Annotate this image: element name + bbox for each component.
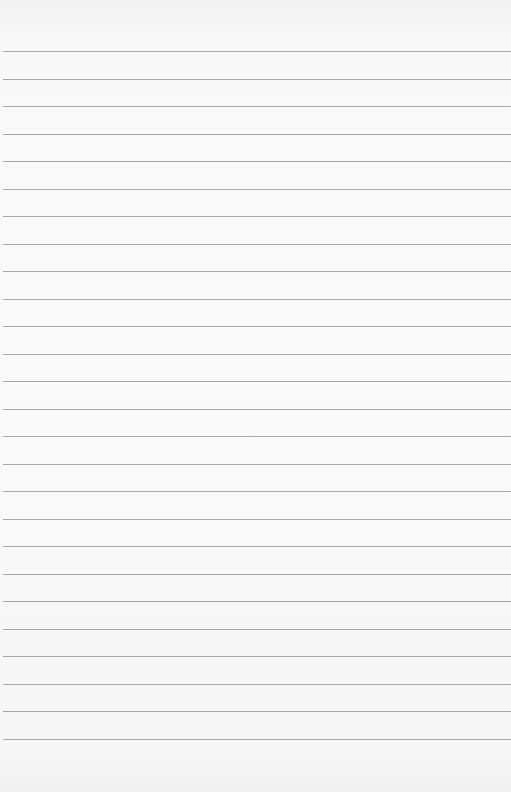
ruled-line [3,299,511,300]
ruled-line [3,216,511,217]
ruled-line [3,656,511,657]
ruled-line [3,134,511,135]
ruled-line [3,51,511,52]
ruled-line [3,436,511,437]
ruled-line [3,106,511,107]
ruled-line [3,739,511,740]
ruled-line [3,546,511,547]
ruled-line [3,79,511,80]
ruled-line [3,491,511,492]
ruled-line [3,354,511,355]
ruled-line [3,326,511,327]
ruled-line [3,381,511,382]
ruled-line [3,711,511,712]
ruled-line [3,189,511,190]
ruled-line [3,271,511,272]
ruled-line [3,519,511,520]
ruled-line [3,574,511,575]
ruled-line [3,161,511,162]
ruled-line [3,684,511,685]
ruled-line [3,409,511,410]
ruled-line [3,464,511,465]
ruled-line [3,244,511,245]
lined-paper-sheet [0,0,511,792]
ruled-line [3,629,511,630]
ruled-line [3,601,511,602]
